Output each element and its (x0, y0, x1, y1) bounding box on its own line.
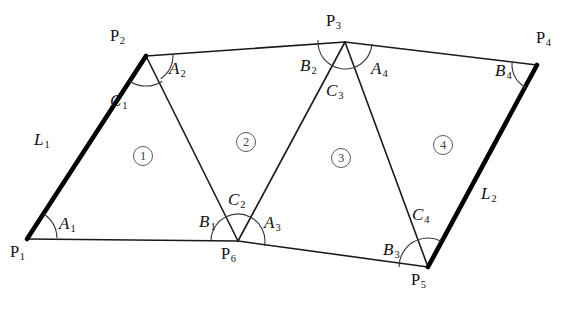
vertex-label-p5: P5 (411, 272, 425, 289)
polygon-thin-edges (27, 42, 537, 267)
vertex-label-p6: P6 (221, 246, 235, 263)
edge-p2-p3 (146, 42, 345, 56)
angle-label-a1: A1 (59, 215, 75, 232)
angle-label-b3: B3 (383, 241, 399, 258)
angle-label-c2: C2 (228, 191, 245, 208)
angle-arc-c1 (130, 81, 163, 86)
polygon-thick-edges (27, 56, 537, 267)
angle-label-c3: C3 (326, 82, 343, 99)
angle-label-a2: A2 (169, 60, 185, 77)
angle-arc-b4 (512, 63, 525, 87)
angle-label-a3: A3 (264, 214, 280, 231)
angle-arc-c3 (342, 68, 354, 69)
edge-p2-p6 (146, 56, 238, 241)
angle-label-b4: B4 (495, 62, 511, 79)
triangle-marker-2: 2 (236, 132, 256, 152)
vertex-label-p3: P3 (326, 13, 340, 30)
angle-label-b2: B2 (300, 57, 316, 74)
triangle-marker-4: 4 (433, 135, 453, 155)
triangulation-diagram (0, 0, 569, 313)
edge-label-l1: L1 (34, 131, 49, 148)
edge-p6-p1 (27, 239, 238, 241)
angle-label-b1: B1 (199, 213, 215, 230)
vertex-label-p4: P4 (536, 30, 550, 47)
angle-arc-a1 (43, 214, 57, 238)
vertex-label-p1: P1 (10, 244, 24, 261)
angle-arc-c4 (422, 238, 441, 241)
edge-label-l2: L2 (481, 185, 496, 202)
edge-l2 (428, 65, 537, 267)
angle-arc-c2 (226, 214, 250, 217)
angle-label-c4: C4 (412, 206, 429, 223)
triangle-marker-3: 3 (331, 148, 351, 168)
vertex-label-p2: P2 (110, 28, 124, 45)
angle-label-a4: A4 (371, 60, 387, 77)
angle-label-c1: C1 (110, 92, 127, 109)
angle-arc-a4 (353, 44, 372, 68)
triangle-marker-1: 1 (133, 146, 153, 166)
angle-arc-a3 (250, 217, 265, 246)
